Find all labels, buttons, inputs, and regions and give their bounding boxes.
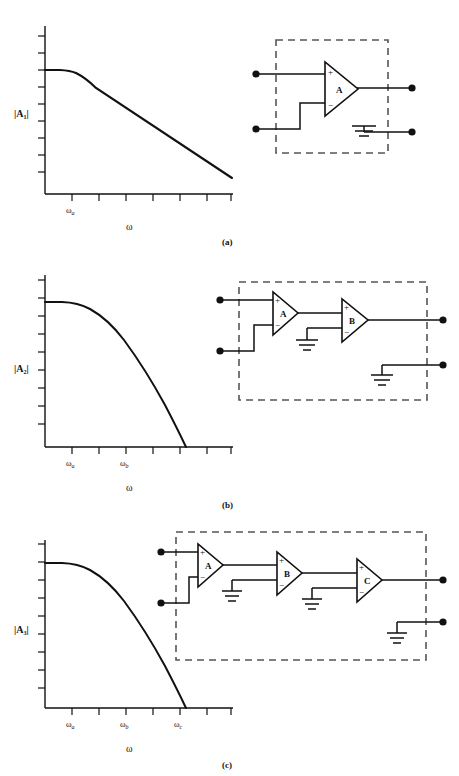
opamp-a-label: A bbox=[336, 85, 343, 95]
opamp-c-stage-2-label: B bbox=[284, 569, 290, 579]
output-terminal-bottom-c bbox=[439, 618, 446, 625]
ground-symbol-c-2 bbox=[302, 588, 322, 609]
opamp-b-stage-1: + − A bbox=[273, 292, 298, 335]
y-ticks-c bbox=[38, 544, 45, 688]
x-tick-label-omega-a-b: ωa bbox=[66, 458, 75, 469]
opamp-b-stage-2-plus: + bbox=[344, 302, 349, 312]
opamp-c-stage-3-label: C bbox=[364, 576, 371, 586]
x-tick-label-omega-a: ωa bbox=[66, 205, 75, 216]
opamp-c-stage-2-plus: + bbox=[279, 555, 284, 565]
opamp-b-stage-1-minus: − bbox=[275, 320, 280, 330]
opamp-a-minus: − bbox=[328, 100, 333, 110]
ground-symbol-b-1 bbox=[296, 328, 318, 350]
x-ticks-a bbox=[72, 194, 231, 201]
panel-a-graphic: |A1| ωa ω bbox=[0, 0, 459, 255]
opamp-c-stage-1-plus: + bbox=[200, 547, 205, 557]
circuit-c: + − A + − B bbox=[157, 532, 446, 660]
caption-c: (c) bbox=[222, 760, 232, 770]
caption-b: (b) bbox=[222, 500, 233, 510]
opamp-c-stage-1-minus: − bbox=[200, 572, 205, 582]
opamp-a-plus: + bbox=[328, 67, 333, 77]
ground-symbol-b-2 bbox=[371, 365, 393, 385]
y-axis-label-b: |A2| bbox=[14, 363, 29, 375]
opamp-c-stage-3-minus: − bbox=[359, 587, 364, 597]
ground-symbol-a bbox=[352, 126, 376, 136]
panel-b-graphic: |A2| ωa ωb ω bbox=[0, 255, 459, 520]
opamp-c-stage-1: + − A bbox=[198, 544, 223, 587]
x-axis-label-b: ω bbox=[126, 482, 133, 493]
y-ticks-b bbox=[38, 280, 45, 424]
curve-b bbox=[45, 302, 186, 447]
opamp-b-stage-1-plus: + bbox=[275, 295, 280, 305]
opamp-c-stage-1-label: A bbox=[205, 561, 212, 571]
curve-a bbox=[45, 70, 232, 178]
x-ticks-b bbox=[72, 447, 231, 454]
output-terminal-bottom-b bbox=[439, 361, 446, 368]
panel-a: |A1| ωa ω bbox=[0, 0, 459, 255]
y-axis-label-a: |A1| bbox=[14, 108, 29, 120]
x-tick-label-omega-c-c: ωc bbox=[174, 719, 183, 730]
x-axis-label-a: ω bbox=[126, 221, 133, 232]
dashed-enclosure-c bbox=[176, 532, 426, 660]
opamp-a: + − A bbox=[325, 62, 358, 116]
output-terminal-top-a bbox=[408, 84, 415, 91]
curve-c bbox=[45, 563, 186, 708]
x-tick-label-omega-b-b: ωb bbox=[120, 458, 129, 469]
circuit-b: + − A + − B bbox=[216, 282, 446, 400]
opamp-c-stage-2-minus: − bbox=[279, 580, 284, 590]
plot-a: |A1| ωa ω bbox=[14, 26, 233, 232]
ground-symbol-c-1 bbox=[222, 580, 242, 601]
x-tick-label-omega-b-c: ωb bbox=[120, 719, 129, 730]
plot-b: |A2| ωa ωb ω bbox=[14, 275, 233, 493]
y-axis-label-c: |A3| bbox=[14, 624, 29, 636]
opamp-b-stage-2: + − B bbox=[342, 299, 368, 342]
panel-c: |A3| ωa ωb ωc ω bbox=[0, 520, 459, 776]
output-terminal-top-c bbox=[439, 576, 446, 583]
ground-symbol-c-3 bbox=[387, 622, 407, 643]
opamp-b-stage-2-label: B bbox=[349, 316, 355, 326]
opamp-c-stage-2: + − B bbox=[277, 552, 302, 595]
opamp-c-stage-3: + − C bbox=[357, 559, 382, 602]
caption-a: (a) bbox=[222, 237, 233, 247]
y-ticks-a bbox=[38, 36, 45, 172]
opamp-b-stage-1-label: A bbox=[280, 309, 287, 319]
x-axis-label-c: ω bbox=[126, 743, 133, 754]
wires-b bbox=[220, 300, 443, 365]
panel-b: |A2| ωa ωb ω bbox=[0, 255, 459, 520]
output-terminal-top-b bbox=[439, 316, 446, 323]
x-ticks-c bbox=[72, 708, 231, 715]
output-terminal-bottom-a bbox=[408, 128, 415, 135]
opamp-c-stage-3-plus: + bbox=[359, 562, 364, 572]
panel-c-graphic: |A3| ωa ωb ωc ω bbox=[0, 520, 459, 776]
x-tick-label-omega-a-c: ωa bbox=[66, 719, 75, 730]
opamp-b-stage-2-minus: − bbox=[344, 327, 349, 337]
circuit-a: + − A bbox=[252, 40, 415, 153]
